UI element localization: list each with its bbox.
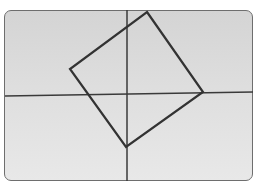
coordinate-diagram	[0, 0, 259, 184]
rotated-square	[70, 12, 203, 147]
x-axis	[5, 92, 253, 96]
